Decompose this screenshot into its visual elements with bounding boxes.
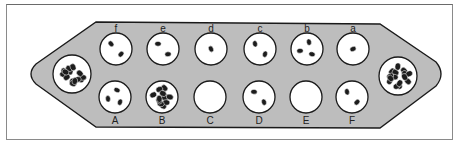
pit-circle bbox=[147, 33, 179, 65]
pit-e[interactable] bbox=[147, 33, 179, 65]
pit-c[interactable] bbox=[244, 33, 276, 65]
pit-circle bbox=[99, 81, 131, 113]
pit-label-a: a bbox=[350, 23, 356, 34]
seed bbox=[105, 95, 110, 102]
pit-circle bbox=[194, 81, 226, 113]
seed bbox=[251, 89, 258, 94]
pit-label-D: D bbox=[255, 115, 262, 126]
pit-d[interactable] bbox=[195, 33, 227, 65]
pit-circle bbox=[336, 81, 368, 113]
seed bbox=[297, 48, 304, 53]
pit-label-F: F bbox=[349, 115, 355, 126]
pit-label-f: f bbox=[115, 23, 118, 34]
pit-E[interactable] bbox=[290, 81, 322, 113]
pit-A[interactable] bbox=[99, 81, 131, 113]
pit-circle bbox=[290, 81, 322, 113]
pit-circle bbox=[291, 33, 323, 65]
right-store[interactable] bbox=[379, 57, 417, 95]
pit-label-A: A bbox=[112, 115, 119, 126]
pit-B[interactable] bbox=[146, 81, 178, 113]
pit-label-d: d bbox=[208, 23, 214, 34]
pit-b[interactable] bbox=[291, 33, 323, 65]
pit-circle bbox=[100, 33, 132, 65]
seed bbox=[156, 95, 162, 103]
mancala-board: fedcbaABCDEF bbox=[0, 0, 461, 148]
pit-label-e: e bbox=[160, 23, 166, 34]
pit-label-c: c bbox=[258, 23, 263, 34]
pit-label-E: E bbox=[303, 115, 310, 126]
pit-label-B: B bbox=[159, 115, 166, 126]
pit-circle bbox=[243, 81, 275, 113]
pit-D[interactable] bbox=[243, 81, 275, 113]
pit-C[interactable] bbox=[194, 81, 226, 113]
pit-label-b: b bbox=[304, 23, 310, 34]
pit-F[interactable] bbox=[336, 81, 368, 113]
pit-label-C: C bbox=[206, 115, 213, 126]
pit-a[interactable] bbox=[337, 33, 369, 65]
pit-circle bbox=[244, 33, 276, 65]
pit-f[interactable] bbox=[100, 33, 132, 65]
seed bbox=[155, 41, 161, 46]
left-store[interactable] bbox=[53, 55, 91, 93]
